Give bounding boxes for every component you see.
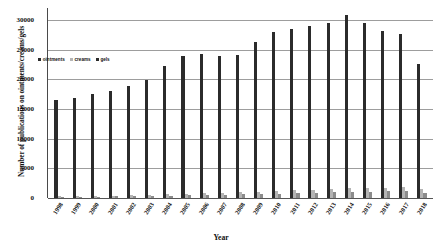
y-axis-tick-label: 20000 — [0, 75, 34, 83]
x-axis-tick-label: 2009 — [251, 201, 264, 216]
y-axis-tick-label: 25000 — [0, 46, 34, 54]
bar-ointments-2015 — [363, 23, 366, 198]
y-axis-tick-label: 0 — [0, 194, 34, 202]
x-axis-tick-label: 2005 — [179, 201, 192, 216]
x-axis-tick-label: 2008 — [233, 201, 246, 216]
bar-group — [268, 8, 286, 198]
bar-group — [177, 8, 195, 198]
x-axis-tick-label: 2018 — [415, 201, 428, 216]
x-tick: 2010 — [267, 200, 285, 236]
gridline — [48, 198, 433, 199]
bar-group — [286, 8, 304, 198]
bar-ointments-1998 — [54, 100, 57, 198]
x-axis-tick-label: 2016 — [379, 201, 392, 216]
bar-ointments-2004 — [163, 66, 166, 198]
legend-item-gels: gels — [96, 57, 110, 62]
bar-ointments-2014 — [345, 15, 348, 198]
bar-ointments-1999 — [73, 98, 76, 198]
x-axis-tick-label: 2015 — [361, 201, 374, 216]
bar-gels-2004 — [169, 196, 172, 198]
bar-gels-2001 — [115, 196, 118, 198]
x-axis-tick-label: 1999 — [70, 201, 83, 216]
x-tick: 2018 — [413, 200, 431, 236]
bar-ointments-2002 — [127, 86, 130, 198]
bar-group — [358, 8, 376, 198]
x-axis-tick-label: 2002 — [124, 201, 137, 216]
x-tick: 2017 — [395, 200, 413, 236]
bar-gels-2016 — [387, 191, 390, 198]
bar-group — [395, 8, 413, 198]
x-axis-tick-label: 2007 — [215, 201, 228, 216]
y-axis-tick-label: 10000 — [0, 135, 34, 143]
y-axis-tick-label: 30000 — [0, 16, 34, 24]
bar-group — [68, 8, 86, 198]
bar-ointments-2008 — [236, 55, 239, 198]
bar-group — [413, 8, 431, 198]
x-axis-title: Year — [0, 233, 442, 242]
x-axis-tick-label: 2003 — [142, 201, 155, 216]
bar-group — [340, 8, 358, 198]
bar-ointments-2000 — [91, 94, 94, 199]
bar-group — [141, 8, 159, 198]
y-axis-tick-label: 5000 — [0, 164, 34, 172]
x-axis-tick-label: 2010 — [270, 201, 283, 216]
legend-swatch-icon — [96, 58, 99, 61]
x-tick: 2008 — [231, 200, 249, 236]
x-axis-tick-label: 2006 — [197, 201, 210, 216]
bar-ointments-2007 — [218, 56, 221, 199]
bar-group — [250, 8, 268, 198]
x-axis-tick-label: 2000 — [88, 201, 101, 216]
bar-group — [195, 8, 213, 198]
bar-gels-2002 — [133, 196, 136, 198]
plot-area: 050001000015000200002500030000 — [47, 8, 433, 198]
bar-gels-2009 — [260, 194, 263, 198]
bar-gels-2005 — [188, 195, 191, 198]
x-tick: 2014 — [340, 200, 358, 236]
x-tick: 2000 — [85, 200, 103, 236]
bar-ointments-2018 — [417, 64, 420, 198]
x-axis-tick-label: 2001 — [106, 201, 119, 216]
bar-group — [213, 8, 231, 198]
bar-gels-1999 — [79, 197, 82, 198]
x-tick: 2016 — [376, 200, 394, 236]
bar-gels-2014 — [351, 192, 354, 198]
bar-gels-2010 — [278, 194, 281, 199]
bar-ointments-2016 — [381, 31, 384, 198]
x-axis-tick-label: 2014 — [342, 201, 355, 216]
x-tick: 2005 — [176, 200, 194, 236]
bar-gels-2006 — [206, 195, 209, 198]
bar-group — [104, 8, 122, 198]
x-tick: 2004 — [158, 200, 176, 236]
x-axis-tick-label: 2017 — [397, 201, 410, 216]
bar-ointments-2017 — [399, 34, 402, 198]
bar-ointments-2012 — [308, 26, 311, 198]
x-axis-tick-label: 2012 — [306, 201, 319, 216]
x-axis-tick-label: 2013 — [324, 201, 337, 216]
legend-label: creams — [75, 57, 91, 62]
x-axis-tick-label: 1998 — [51, 201, 64, 216]
legend-swatch-icon — [70, 58, 73, 61]
bar-group — [123, 8, 141, 198]
legend-swatch-icon — [38, 58, 41, 61]
x-tick: 2002 — [122, 200, 140, 236]
legend-label: gels — [100, 57, 109, 62]
x-tick: 1999 — [67, 200, 85, 236]
x-tick: 2007 — [213, 200, 231, 236]
bar-gels-2003 — [151, 196, 154, 198]
bar-gels-2008 — [242, 194, 245, 198]
x-axis-tick-label: 2004 — [160, 201, 173, 216]
bar-gels-2015 — [369, 192, 372, 198]
x-tick: 2011 — [285, 200, 303, 236]
x-tick: 1998 — [49, 200, 67, 236]
bar-group — [50, 8, 68, 198]
x-tick: 2013 — [322, 200, 340, 236]
bar-gels-2007 — [224, 195, 227, 198]
bar-ointments-2013 — [327, 23, 330, 198]
bar-gels-2018 — [423, 193, 426, 198]
x-tick: 2001 — [104, 200, 122, 236]
bar-series-container — [48, 8, 433, 198]
bar-ointments-2001 — [109, 91, 112, 198]
bar-gels-2013 — [333, 192, 336, 198]
legend-item-ointments: ointments — [38, 57, 65, 62]
x-tick: 2006 — [195, 200, 213, 236]
